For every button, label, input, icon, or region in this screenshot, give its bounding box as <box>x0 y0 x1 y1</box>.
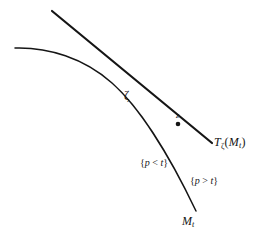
tangent-label-argument: M <box>229 135 239 149</box>
region-inner-relation: < <box>152 157 158 168</box>
geometry-figure: ζ z Tζ(Mt) {p < t} {p > t} Mt <box>0 0 266 244</box>
region-outer-variable: p <box>195 175 200 186</box>
figure-canvas <box>0 0 266 244</box>
curve-label-subscript: t <box>192 220 194 229</box>
label-tangent-line: Tζ(Mt) <box>214 136 246 151</box>
label-region-inner: {p < t} <box>140 158 168 168</box>
manifold-curve <box>15 48 196 211</box>
label-region-outer: {p > t} <box>190 176 218 186</box>
tangent-label-paren-close: ) <box>241 135 245 149</box>
region-inner-variable: p <box>145 157 150 168</box>
label-curve-mt: Mt <box>182 215 194 229</box>
region-outer-relation: > <box>202 175 208 186</box>
tangent-label-base: T <box>214 135 221 149</box>
label-tangency-point-zeta: ζ <box>124 88 129 101</box>
label-point-z: z <box>176 112 179 120</box>
curve-label-base: M <box>182 214 192 228</box>
region-outer-brace-close: } <box>213 175 218 186</box>
point-z-marker <box>176 122 181 127</box>
region-inner-brace-close: } <box>163 157 168 168</box>
tangent-line <box>52 11 212 143</box>
